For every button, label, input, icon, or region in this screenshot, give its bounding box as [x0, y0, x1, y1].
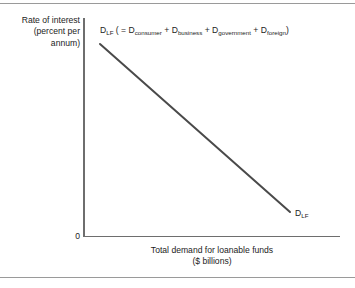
demand-curve-line	[100, 44, 290, 212]
equation-term3-subscript: government	[218, 29, 251, 36]
equation-plus-3: + D	[251, 25, 267, 35]
equation-open-paren: ( = D	[113, 25, 134, 35]
figure-container: Rate of interest (percent per annum) 0 D…	[0, 0, 355, 288]
equation-term4-subscript: foreign	[267, 29, 286, 36]
equation-close-paren: )	[286, 25, 289, 35]
bottom-divider-rule	[0, 277, 355, 278]
top-divider-rule	[0, 3, 355, 4]
demand-curve-end-label: DLF	[295, 208, 308, 218]
x-axis-line	[83, 236, 340, 238]
equation-term1-subscript: consumer	[135, 29, 162, 36]
end-label-subscript: LF	[301, 212, 308, 219]
equation-plus-2: + D	[202, 25, 218, 35]
equation-term2-subscript: business	[178, 29, 202, 36]
y-axis-line	[83, 18, 85, 237]
x-axis-label: Total demand for loanable funds ($ billi…	[112, 245, 312, 268]
equation-d-subscript: LF	[106, 29, 113, 36]
origin-label: 0	[68, 231, 80, 241]
demand-curve-equation: DLF ( = Dconsumer + Dbusiness + Dgovernm…	[100, 25, 289, 35]
y-axis-label: Rate of interest (percent per annum)	[0, 15, 80, 49]
equation-plus-1: + D	[162, 25, 178, 35]
